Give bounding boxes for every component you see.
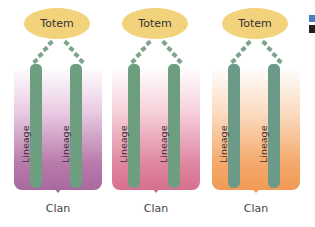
lineage-label-left: Lineage bbox=[118, 126, 129, 164]
lineage-bar-left bbox=[128, 64, 140, 188]
totem-ellipse: Totem bbox=[122, 8, 188, 39]
clan-notch bbox=[250, 186, 262, 193]
clan-label: Clan bbox=[212, 202, 300, 215]
lineage-bar-right bbox=[70, 64, 82, 188]
clan-label: Clan bbox=[112, 202, 200, 215]
clan-panel-3: Totem Lineage Lineage Clan bbox=[212, 0, 300, 227]
clan-panel-2: Totem Lineage Lineage Clan bbox=[112, 0, 200, 227]
clan-label: Clan bbox=[14, 202, 102, 215]
totem-label: Totem bbox=[40, 17, 73, 30]
cropped-glyph-blue bbox=[309, 15, 315, 22]
lineage-label-right: Lineage bbox=[60, 126, 71, 164]
cropped-glyph-dark bbox=[309, 25, 315, 33]
totem-label: Totem bbox=[138, 17, 171, 30]
clan-notch bbox=[52, 186, 64, 193]
lineage-bar-right bbox=[268, 64, 280, 188]
clan-notch bbox=[150, 186, 162, 193]
lineage-bar-right bbox=[168, 64, 180, 188]
totem-ellipse: Totem bbox=[222, 8, 288, 39]
totem-ellipse: Totem bbox=[24, 8, 90, 39]
lineage-bar-left bbox=[228, 64, 240, 188]
lineage-label-right: Lineage bbox=[158, 126, 169, 164]
lineage-label-left: Lineage bbox=[218, 126, 229, 164]
lineage-label-right: Lineage bbox=[258, 126, 269, 164]
clan-panel-1: Totem Lineage Lineage Clan bbox=[14, 0, 102, 227]
totem-label: Totem bbox=[238, 17, 271, 30]
lineage-label-left: Lineage bbox=[20, 126, 31, 164]
lineage-bar-left bbox=[30, 64, 42, 188]
